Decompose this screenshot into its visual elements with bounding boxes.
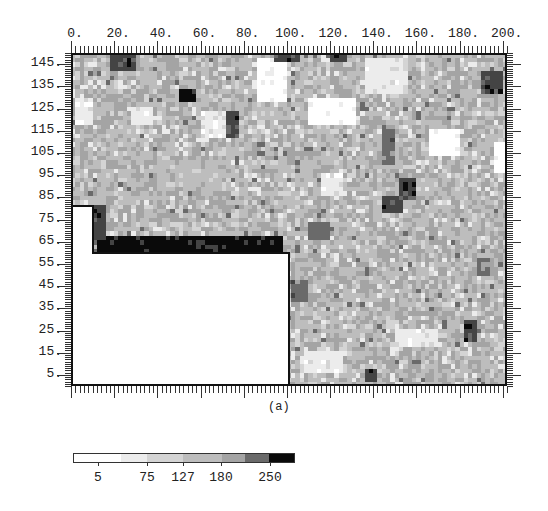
y-tick-label: 5. [18,366,62,381]
x-tick-bottom [438,386,439,393]
x-tick-label: 20. [106,26,129,41]
y-tick-left [65,326,71,327]
x-tick-bottom [140,386,141,393]
x-tick-top [395,46,396,53]
x-tick-top [218,46,219,53]
x-tick-bottom [481,386,482,393]
x-tick-top [399,46,400,53]
colorbar-segment [74,454,121,462]
y-tick-right [507,342,513,343]
y-tick-right [507,191,513,192]
y-tick-left [65,384,71,385]
figure-caption: (a) [268,400,290,414]
x-tick-bottom [352,386,353,393]
y-tick-left [65,122,71,123]
y-tick-left [65,333,71,334]
y-tick-right [507,344,513,345]
y-tick-left [65,182,71,183]
y-tick-right [507,60,513,61]
x-tick-bottom [429,386,430,393]
y-tick-left [65,337,71,338]
y-tick-left [65,55,71,56]
x-tick-top [408,46,409,53]
colorbar-tick [221,462,222,466]
x-tick-top [97,46,98,53]
x-tick-bottom [231,386,232,393]
x-tick-bottom [468,386,469,393]
y-tick-label: 45. [18,277,62,292]
y-tick-left [65,206,71,207]
x-tick-top [93,46,94,53]
y-tick-right [507,213,513,214]
y-tick-right [507,295,513,296]
y-tick-left [65,377,71,378]
x-tick-bottom [209,386,210,393]
x-tick-bottom [373,386,374,398]
y-tick-left [65,259,71,260]
x-tick-top [498,46,499,53]
y-tick-left [65,171,71,172]
x-tick-top [507,46,508,53]
x-tick-bottom [239,386,240,393]
x-tick-top [183,46,184,53]
y-tick-left [65,80,71,81]
x-tick-top [300,46,301,53]
x-tick-top [131,46,132,53]
y-tick-label: 145. [18,55,62,70]
y-tick-left [65,128,71,129]
y-tick-right [507,66,513,67]
y-tick-right [507,337,513,338]
colorbar-tick [183,462,184,466]
y-tick-right [507,84,513,85]
y-tick-left [65,266,71,267]
y-tick-left [65,164,71,165]
x-tick-bottom [334,386,335,393]
x-tick-bottom [416,386,417,398]
x-tick-top [278,46,279,53]
x-tick-bottom [257,386,258,393]
y-tick-label: 115. [18,122,62,137]
x-tick-bottom [261,386,262,393]
colorbar-segment [245,454,269,462]
y-tick-label: 15. [18,344,62,359]
x-tick-top [321,46,322,53]
y-tick-right [507,215,513,216]
y-tick-right [507,217,513,218]
y-tick-right [507,311,513,312]
x-tick-top [304,46,305,53]
y-tick-left [65,328,71,329]
y-tick-right [507,277,513,278]
x-tick-bottom [248,386,249,393]
x-tick-top [416,41,417,53]
y-tick-left [65,322,71,323]
y-tick-right [507,186,513,187]
y-tick-label: 75. [18,211,62,226]
y-tick-left [65,288,71,289]
x-tick-label: 160. [405,26,436,41]
x-tick-top [421,46,422,53]
y-tick-left [65,364,71,365]
y-tick-left [65,157,71,158]
x-tick-top [412,46,413,53]
x-tick-label: 0. [67,26,83,41]
y-tick-left [65,299,71,300]
x-tick-bottom [106,386,107,393]
y-tick-right [507,157,513,158]
y-tick-right [507,184,513,185]
y-tick-right [507,124,513,125]
x-tick-bottom [114,386,115,398]
x-tick-top [153,46,154,53]
x-tick-bottom [408,386,409,393]
y-tick-right [507,93,513,94]
x-tick-top [382,46,383,53]
y-tick-right [507,231,513,232]
y-tick-right [507,164,513,165]
y-tick-right [507,328,513,329]
y-tick-right [507,266,513,267]
x-tick-top [170,46,171,53]
x-tick-top [308,46,309,53]
colorbar-label: 180 [209,470,232,485]
y-tick-left [65,335,71,336]
y-tick-right [507,333,513,334]
y-tick-right [507,237,513,238]
